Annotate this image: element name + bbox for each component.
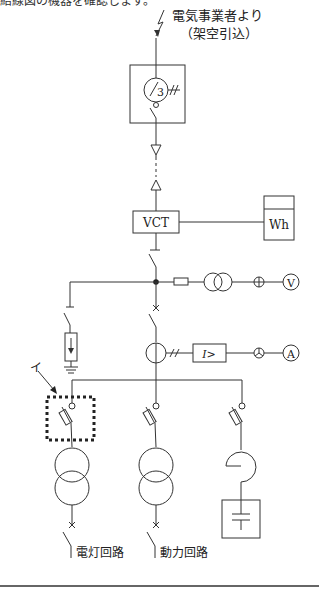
svg-text:VCT: VCT bbox=[142, 216, 169, 230]
pointer-arrow bbox=[38, 371, 54, 390]
vcb-breaker bbox=[149, 282, 159, 342]
pas-count-label: 3 bbox=[157, 86, 164, 99]
vt-fuse-icon bbox=[174, 278, 188, 285]
vt-transformer-icon bbox=[204, 273, 222, 291]
svg-text:Wh: Wh bbox=[269, 218, 289, 232]
relay-label: I> bbox=[201, 348, 216, 361]
feeder-power bbox=[139, 380, 173, 558]
feeder-lighting bbox=[47, 380, 94, 558]
source-label-line1: 電気事業者より bbox=[172, 8, 263, 23]
single-line-diagram: 電気事業者より （架空引込） 3 VCT Wh bbox=[0, 0, 319, 595]
zct-circle-icon bbox=[144, 78, 168, 102]
ds-switch-blade bbox=[149, 254, 156, 267]
la-switch-blade bbox=[64, 313, 70, 325]
lighting-circuit-label: 電灯回路 bbox=[76, 545, 124, 560]
pf-fuse-icon bbox=[59, 409, 72, 425]
power-circuit-label: 動力回路 bbox=[160, 545, 208, 560]
switch-blade bbox=[150, 108, 156, 118]
wh-meter-box: Wh bbox=[264, 196, 294, 240]
feeder-capacitor bbox=[222, 380, 260, 538]
cable-head-down-icon bbox=[151, 145, 161, 155]
vct-box: VCT bbox=[133, 211, 179, 233]
voltmeter-label: V bbox=[286, 277, 296, 290]
pas-switch-box: 3 bbox=[130, 65, 185, 123]
incoming-service-icon bbox=[154, 10, 164, 37]
cable-head-up-icon bbox=[151, 180, 161, 190]
transformer-icon bbox=[55, 448, 89, 482]
series-reactor-icon bbox=[226, 452, 256, 482]
source-label-line2: （架空引込） bbox=[180, 26, 258, 41]
ammeter-label: A bbox=[286, 348, 296, 361]
bottom-divider bbox=[0, 585, 319, 587]
